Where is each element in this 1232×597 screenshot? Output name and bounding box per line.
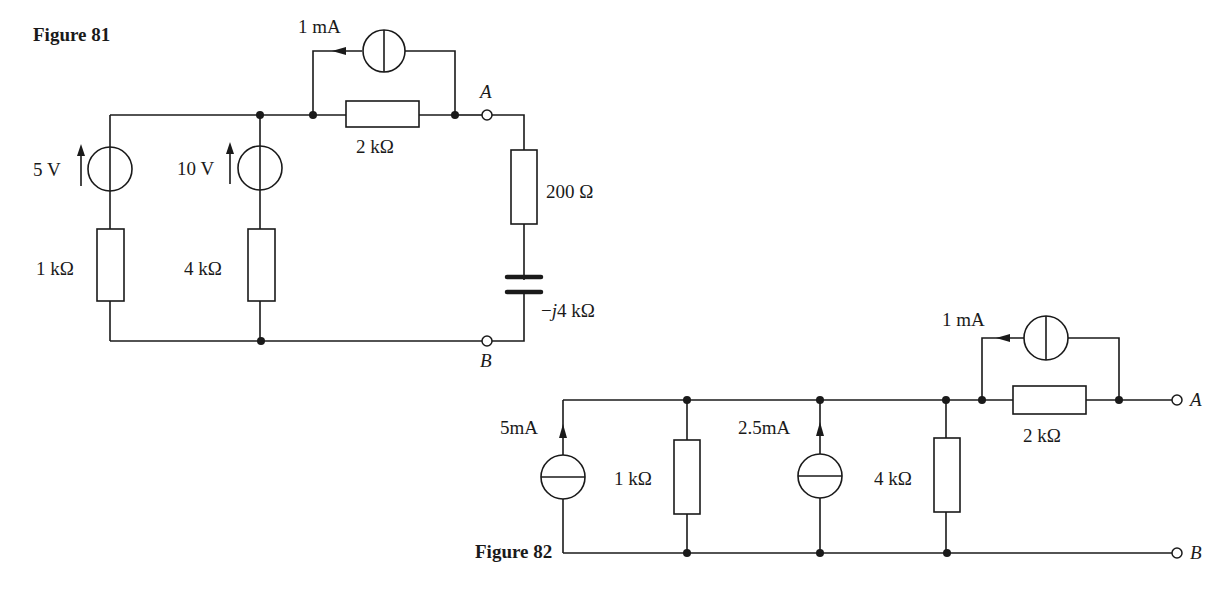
terminal-b[interactable] [482, 336, 492, 346]
voltage-source-10v [226, 142, 282, 190]
junction-dot [978, 396, 986, 404]
label-5ma: 5mA [500, 417, 538, 438]
label-capacitor: −j4 kΩ [541, 300, 595, 321]
resistor-1k [97, 229, 124, 301]
label-200: 200 Ω [546, 181, 593, 202]
label-1k: 1 kΩ [614, 468, 652, 489]
junction-dot [683, 549, 691, 557]
label-1ma: 1 mA [298, 16, 341, 37]
resistor-200 [511, 150, 537, 224]
label-2-5ma: 2.5mA [738, 417, 791, 438]
terminal-a[interactable] [1172, 395, 1182, 405]
label-4k: 4 kΩ [874, 468, 912, 489]
label-5v: 5 V [33, 159, 61, 180]
figure-82-caption: Figure 82 [475, 541, 552, 562]
junction-dot [1115, 396, 1123, 404]
circuit-page: Figure 81 5 V 1 kΩ 10 V 4 kΩ 2 kΩ [0, 0, 1232, 597]
junction-dot [943, 549, 951, 557]
junction-dot [816, 549, 824, 557]
wire-right-branch [491, 115, 524, 341]
label-2k: 2 kΩ [1023, 425, 1061, 446]
figure-81: Figure 81 5 V 1 kΩ 10 V 4 kΩ 2 kΩ [33, 16, 595, 371]
label-1ma: 1 mA [942, 309, 985, 330]
junction-dot [683, 396, 691, 404]
terminal-b[interactable] [1172, 548, 1182, 558]
arrow-left-icon [332, 47, 346, 55]
junction-dot [816, 396, 824, 404]
resistor-4k [248, 229, 275, 301]
junction-dot [451, 111, 459, 119]
label-10v: 10 V [177, 158, 214, 179]
label-1k: 1 kΩ [36, 258, 74, 279]
junction-dot [942, 396, 950, 404]
resistor-4k [934, 438, 960, 512]
current-source-1ma [332, 30, 405, 72]
terminal-a[interactable] [482, 110, 492, 120]
current-source-1ma [996, 316, 1068, 360]
label-4k: 4 kΩ [184, 258, 222, 279]
junction-dot [257, 337, 265, 345]
resistor-2k [346, 101, 419, 127]
voltage-source-5v [77, 144, 132, 191]
junction-dot [309, 111, 317, 119]
label-2k: 2 kΩ [356, 136, 394, 157]
resistor-1k [674, 440, 700, 514]
label-terminal-a: A [478, 81, 492, 102]
figure-82: Figure 82 5mA 1 kΩ 2.5mA 4 kΩ 2 [475, 309, 1202, 563]
figure-81-caption: Figure 81 [33, 24, 110, 45]
label-terminal-a: A [1188, 389, 1202, 410]
current-source-2-5ma [798, 422, 842, 498]
arrow-up-icon [559, 424, 567, 438]
current-source-5ma [541, 424, 585, 499]
junction-dot [256, 111, 264, 119]
label-terminal-b: B [1190, 542, 1202, 563]
arrow-left-icon [996, 334, 1010, 342]
resistor-2k [1013, 386, 1086, 414]
arrow-up-icon [816, 422, 824, 436]
label-terminal-b: B [480, 350, 492, 371]
